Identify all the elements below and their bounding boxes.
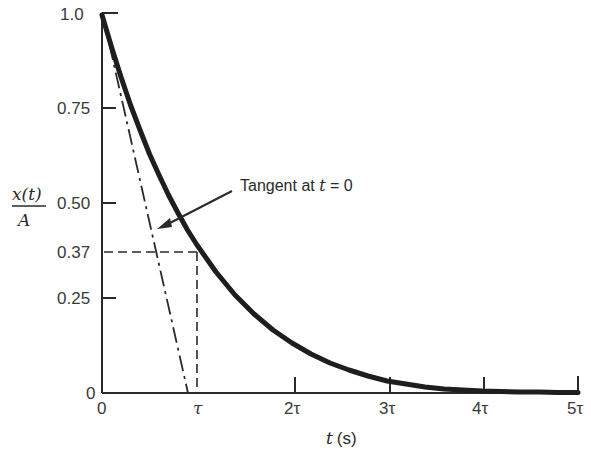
x-label-4: 4τ xyxy=(472,399,488,418)
y-label-1: 1.0 xyxy=(60,5,84,24)
x-label-1: τ xyxy=(193,398,203,418)
x-label-2: 2τ xyxy=(284,399,300,418)
x-label-0: 0 xyxy=(97,399,106,418)
y-label-075: 0.75 xyxy=(57,99,90,118)
x-label-3: 3τ xyxy=(379,399,395,418)
y-label-050: 0.50 xyxy=(57,194,90,213)
tangent-annotation-label: Tangent at t = 0 xyxy=(240,176,353,195)
y-label-037: 0.37 xyxy=(57,243,90,262)
x-axis-title: t(s) xyxy=(326,428,357,448)
decay-chart: Tangent at t = 0 1.0 0.75 0.50 0.37 0.25… xyxy=(0,0,591,455)
y-label-025: 0.25 xyxy=(57,289,90,308)
svg-text:x(t): x(t) xyxy=(12,184,42,204)
x-label-5: 5τ xyxy=(567,399,583,418)
decay-curve xyxy=(102,15,578,393)
y-label-0: 0 xyxy=(86,384,95,403)
y-axis-title: x(t) A xyxy=(12,184,46,230)
svg-text:A: A xyxy=(16,210,30,230)
